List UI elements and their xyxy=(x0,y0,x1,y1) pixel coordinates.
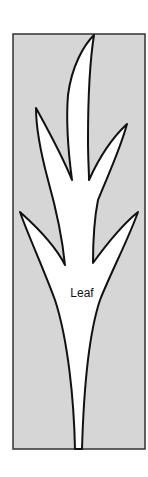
leaf-label: Leaf xyxy=(60,286,104,300)
leaf-diagram xyxy=(0,0,148,477)
